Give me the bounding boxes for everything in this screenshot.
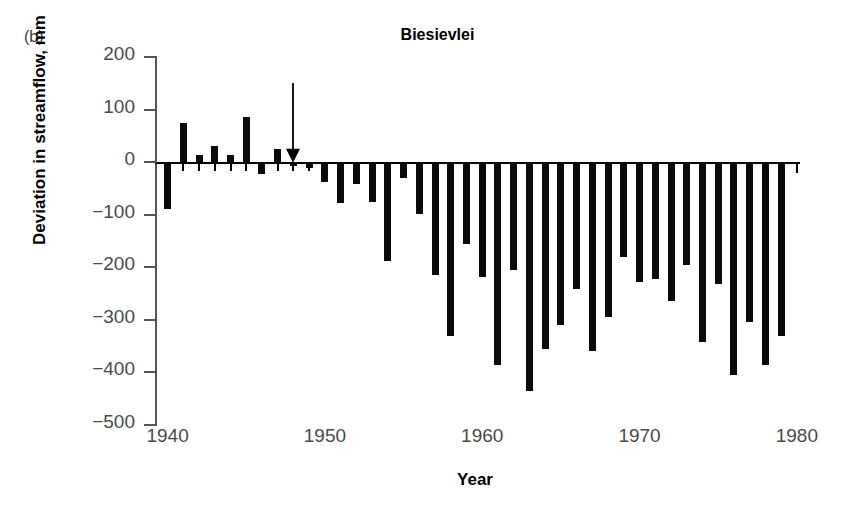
bar xyxy=(369,162,376,201)
bar xyxy=(337,162,344,203)
plot-area: 2001000−100−200−300−400−500 194019501960… xyxy=(155,50,800,432)
bar xyxy=(432,162,439,275)
bar xyxy=(164,162,171,209)
bar xyxy=(715,162,722,284)
bar xyxy=(542,162,549,349)
x-tick-minor xyxy=(214,164,216,171)
bar xyxy=(605,162,612,317)
x-tick-major xyxy=(796,164,798,173)
x-tick-label: 1960 xyxy=(461,425,503,447)
x-tick-minor xyxy=(245,164,247,171)
y-tick: −200 xyxy=(144,266,157,268)
y-tick: −300 xyxy=(144,319,157,321)
chart-title: Biesievlei xyxy=(0,26,845,44)
bar xyxy=(557,162,564,325)
bar xyxy=(258,162,265,174)
y-tick-label: −500 xyxy=(45,411,135,433)
bar xyxy=(778,162,785,335)
y-tick: 100 xyxy=(144,109,157,111)
bar xyxy=(573,162,580,289)
x-tick-minor xyxy=(230,164,232,171)
bar xyxy=(510,162,517,270)
bar xyxy=(636,162,643,282)
bar xyxy=(384,162,391,261)
x-tick-minor xyxy=(182,164,184,171)
bar xyxy=(699,162,706,342)
bar xyxy=(211,146,218,162)
y-tick-label: 0 xyxy=(45,148,135,170)
y-tick: −100 xyxy=(144,214,157,216)
x-tick-minor xyxy=(277,164,279,171)
y-tick-label: −200 xyxy=(45,253,135,275)
bar xyxy=(290,162,297,166)
y-tick-label: 200 xyxy=(45,43,135,65)
bar xyxy=(652,162,659,279)
bar xyxy=(353,162,360,184)
bar xyxy=(746,162,753,322)
bar xyxy=(227,155,234,162)
down-arrow-icon xyxy=(280,83,306,166)
y-tick: −400 xyxy=(144,371,157,373)
x-axis-title: Year xyxy=(150,470,800,490)
bar xyxy=(589,162,596,351)
bar xyxy=(274,149,281,162)
x-tick-label: 1970 xyxy=(618,425,660,447)
x-tick-label: 1950 xyxy=(304,425,346,447)
y-tick-label: 100 xyxy=(45,96,135,118)
y-axis-line xyxy=(155,57,157,425)
bar xyxy=(306,162,313,168)
bar xyxy=(668,162,675,301)
y-tick: 0 xyxy=(144,161,157,163)
x-tick-label: 1980 xyxy=(776,425,818,447)
bar xyxy=(416,162,423,214)
bar xyxy=(196,155,203,162)
x-tick-label: 1940 xyxy=(146,425,188,447)
bar xyxy=(479,162,486,277)
y-tick-label: −400 xyxy=(45,358,135,380)
bar xyxy=(447,162,454,335)
bar xyxy=(463,162,470,243)
bar xyxy=(243,117,250,162)
x-tick-minor xyxy=(198,164,200,171)
y-tick-label: −300 xyxy=(45,306,135,328)
bar xyxy=(730,162,737,375)
bar xyxy=(494,162,501,364)
bar xyxy=(762,162,769,364)
bar xyxy=(620,162,627,257)
figure-panel: (b) Biesievlei Deviation in streamflow, … xyxy=(0,0,845,505)
bar xyxy=(683,162,690,265)
bar xyxy=(180,123,187,162)
y-tick-label: −100 xyxy=(45,201,135,223)
bar xyxy=(321,162,328,182)
bar xyxy=(400,162,407,178)
bar xyxy=(526,162,533,391)
y-tick: 200 xyxy=(144,56,157,58)
